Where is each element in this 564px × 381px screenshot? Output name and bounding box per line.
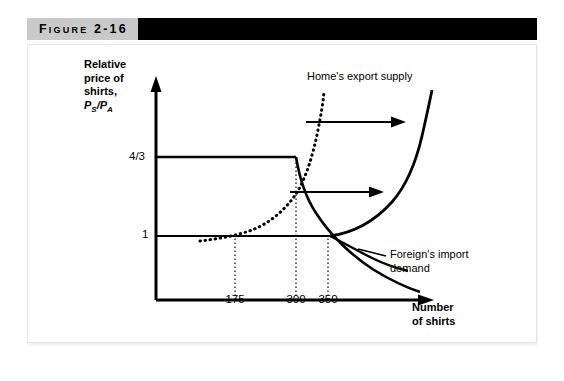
curve-label-foreign-import-demand: Foreign's import demand [390, 248, 469, 275]
y-axis-title: Relative price of shirts, PS/PA [84, 58, 126, 116]
ratio-numerator-subscript: S [91, 105, 96, 114]
figure-number-tag: Figure 2-16 [27, 18, 138, 40]
y-axis-title-line-2: price of [84, 72, 126, 86]
x-tick-label-350: 350 [311, 293, 345, 305]
x-tick-label-175: 175 [218, 293, 252, 305]
y-axis-title-line-3: shirts, [84, 85, 126, 99]
ratio-denominator: P [100, 99, 107, 111]
x-axis-title: Number of shirts [412, 301, 455, 328]
y-axis-title-line-1: Relative [84, 58, 126, 72]
import-demand-label-line-2: demand [390, 262, 469, 276]
ratio-denominator-subscript: A [107, 105, 113, 114]
y-tick-label-4-3: 4/3 [129, 150, 145, 162]
x-axis-title-line-2: of shirts [412, 315, 455, 329]
figure-header-bar [138, 18, 537, 40]
x-axis-title-line-1: Number [412, 301, 455, 315]
figure-header: Figure 2-16 [27, 18, 537, 40]
curve-label-home-export-supply: Home's export supply [307, 70, 412, 84]
y-tick-label-1: 1 [142, 228, 148, 240]
import-demand-label-line-1: Foreign's import [390, 248, 469, 262]
x-tick-label-300: 300 [279, 293, 313, 305]
y-axis-title-ratio: PS/PA [84, 99, 126, 117]
